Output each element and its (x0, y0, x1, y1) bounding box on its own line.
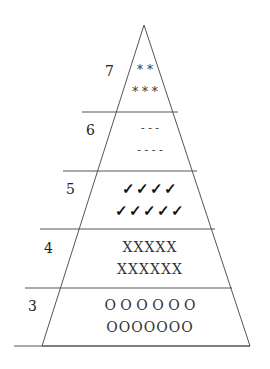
level-7-row-2: * * * (110, 85, 180, 99)
level-5-row-1: ✓✓✓✓ (90, 180, 210, 198)
level-label-4: 4 (44, 240, 53, 256)
level-label-5: 5 (66, 181, 75, 197)
level-3-row-1: O O O O O O (70, 297, 230, 313)
level-7-row-1: * * (110, 63, 180, 77)
level-label-6: 6 (86, 122, 95, 138)
level-5-row-2: ✓✓✓✓✓ (90, 202, 210, 220)
level-3-row-2: OOOOOOO (70, 319, 230, 335)
level-6-row-1: - - - (100, 122, 200, 135)
level-4-row-1: XXXXX (80, 239, 220, 255)
level-6-row-2: - - - - (100, 144, 200, 157)
level-4-row-2: XXXXXX (80, 261, 220, 277)
level-label-3: 3 (28, 298, 37, 314)
